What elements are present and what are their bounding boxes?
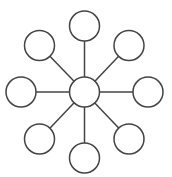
edge-node-bottom-left bbox=[50, 103, 74, 128]
edge-node-top-left bbox=[50, 56, 74, 81]
node-top-circle bbox=[70, 11, 100, 41]
diagram-nodes bbox=[6, 11, 163, 173]
edge-node-bottom-right bbox=[95, 103, 119, 128]
node-top-left-circle bbox=[25, 31, 55, 61]
node-bottom-right-circle bbox=[114, 124, 144, 154]
node-bottom-circle bbox=[70, 143, 100, 173]
node-bottom-left-circle bbox=[25, 124, 55, 154]
node-right-circle bbox=[133, 77, 163, 107]
hub-spoke-diagram bbox=[0, 0, 172, 177]
node-top-right-circle bbox=[114, 31, 144, 61]
edge-node-top-right bbox=[95, 56, 119, 81]
node-left-circle bbox=[6, 77, 36, 107]
hub-node-circle bbox=[70, 77, 100, 107]
